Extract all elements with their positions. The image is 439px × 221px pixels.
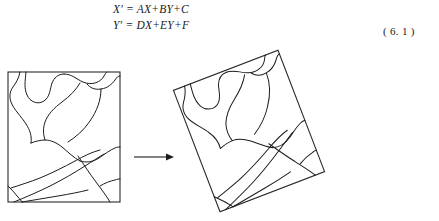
- transform-arrow: [134, 154, 174, 161]
- figure-canvas: [0, 48, 439, 221]
- equation-block: X′ = AX+BY+C Y′ = DX+EY+F: [113, 1, 273, 33]
- transformation-figure: [0, 48, 439, 221]
- source-square-frame: [8, 72, 120, 202]
- transformed-map-quad: [173, 50, 324, 212]
- equation-x-prime: X′ = AX+BY+C: [113, 1, 273, 17]
- source-map-square: [8, 72, 120, 202]
- arrow-head: [166, 154, 174, 161]
- equation-y-prime: Y′ = DX+EY+F: [113, 17, 273, 33]
- figure-page: X′ = AX+BY+C Y′ = DX+EY+F ( 6. 1 ): [0, 0, 439, 221]
- target-quad-frame: [173, 50, 324, 212]
- equation-number: ( 6. 1 ): [383, 25, 415, 37]
